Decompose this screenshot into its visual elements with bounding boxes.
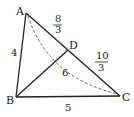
fraction-denominator: 3 xyxy=(98,62,104,73)
triangle-diagram: A B C D 4 5 6 8 3 10 3 xyxy=(0,0,134,117)
segment-bc xyxy=(16,96,120,97)
length-bd: 6 xyxy=(62,67,68,78)
label-c: C xyxy=(122,91,130,104)
label-d: D xyxy=(69,39,78,52)
fraction-numerator: 10 xyxy=(96,50,109,61)
fraction-denominator: 3 xyxy=(55,24,61,35)
segment-bd xyxy=(16,50,68,97)
label-b: B xyxy=(6,94,14,107)
fraction-numerator: 8 xyxy=(55,13,61,24)
label-a: A xyxy=(15,5,25,18)
length-dc-fraction: 10 3 xyxy=(95,50,109,73)
segment-ab xyxy=(16,13,26,97)
length-ad-fraction: 8 3 xyxy=(53,13,62,35)
length-bc: 5 xyxy=(65,102,71,113)
length-ab: 4 xyxy=(11,47,17,58)
